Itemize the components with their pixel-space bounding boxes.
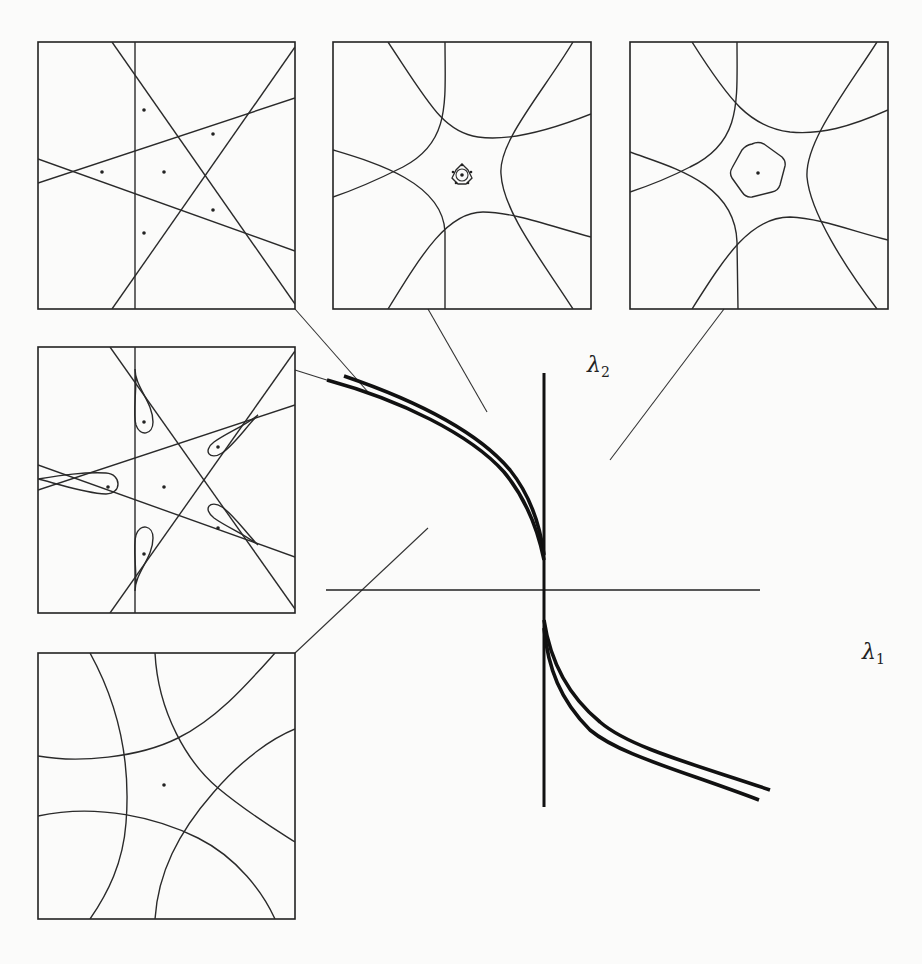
panel-top-middle (333, 42, 591, 309)
rosette-loop (452, 164, 473, 185)
panel-bottom-left (38, 653, 295, 919)
lambda2-label: λ2 (587, 354, 610, 379)
panel-top-left (38, 42, 295, 309)
pentagon-loop (731, 143, 786, 198)
figure-canvas (0, 0, 922, 964)
main-axes (326, 373, 760, 807)
upper-branch-outer (344, 376, 544, 555)
panel-frame (38, 653, 295, 919)
lambda1-subscript: 1 (876, 651, 885, 667)
lambda1-label: λ1 (862, 641, 885, 666)
panel-top-right (630, 42, 888, 309)
lambda2-symbol: λ (587, 352, 601, 377)
leader-top-right (610, 309, 724, 460)
main-curves (327, 376, 770, 800)
leader-top-middle (428, 309, 487, 412)
panel-frame (38, 347, 295, 613)
lambda1-symbol: λ (862, 639, 876, 664)
panel-frame (38, 42, 295, 309)
lambda2-subscript: 2 (601, 364, 610, 380)
panel-middle-left (38, 347, 295, 613)
